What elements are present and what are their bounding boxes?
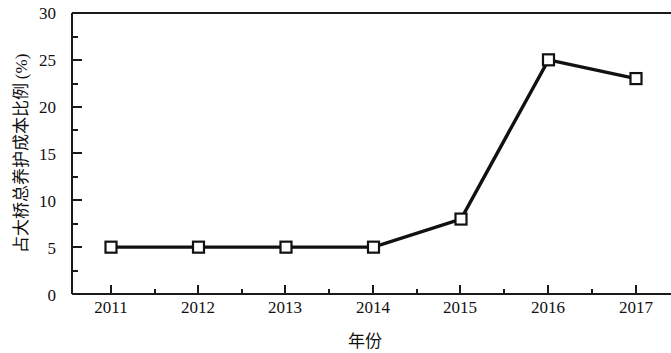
data-point-2013: [281, 242, 292, 253]
y-tick-label-20: 20: [10, 99, 56, 116]
x-tick-label-2012: 2012: [158, 299, 238, 316]
y-tick-label-25: 25: [10, 52, 56, 69]
x-tick-label-2017: 2017: [596, 299, 671, 316]
y-tick-label-30: 30: [10, 5, 56, 22]
data-point-2012: [193, 242, 204, 253]
x-axis-title: 年份: [0, 327, 671, 352]
x-major-ticks: [111, 285, 636, 294]
y-tick-label-5: 5: [10, 240, 56, 257]
data-point-2017: [631, 73, 642, 84]
x-axis-title-text: 年份: [348, 327, 382, 352]
x-tick-label-2014: 2014: [333, 299, 413, 316]
data-series-markers: [106, 54, 642, 252]
x-tick-label-2011: 2011: [71, 299, 151, 316]
data-point-2011: [106, 242, 117, 253]
x-tick-label-2015: 2015: [420, 299, 500, 316]
y-tick-label-0: 0: [10, 287, 56, 304]
x-tick-label-2013: 2013: [245, 299, 325, 316]
y-tick-label-15: 15: [10, 146, 56, 163]
data-point-2016: [543, 54, 554, 65]
y-major-ticks: [72, 13, 82, 294]
line-chart-figure: 占大桥总养护成本比例 (%) 30 25 20 15 10 5 0 2011 2…: [0, 0, 671, 353]
data-point-2014: [368, 242, 379, 253]
y-tick-label-10: 10: [10, 193, 56, 210]
x-tick-label-2016: 2016: [508, 299, 588, 316]
data-point-2015: [456, 214, 467, 225]
data-series-line: [111, 60, 636, 247]
